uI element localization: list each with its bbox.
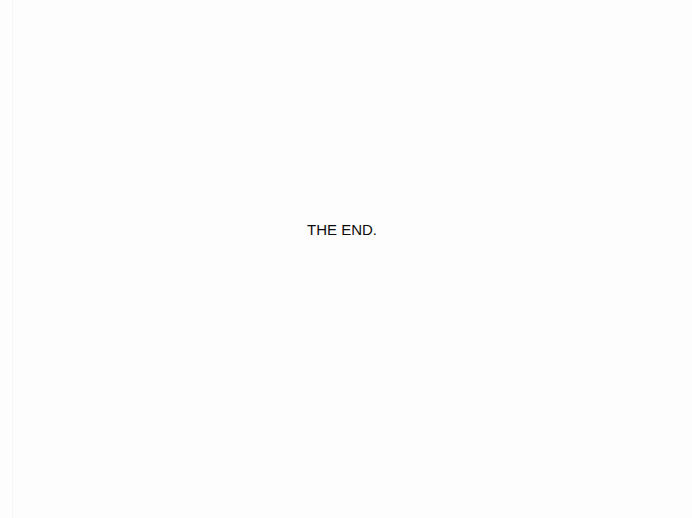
end-text: THE END. (307, 221, 377, 239)
blank-page: THE END. (0, 0, 692, 518)
page-edge-divider (12, 0, 13, 518)
